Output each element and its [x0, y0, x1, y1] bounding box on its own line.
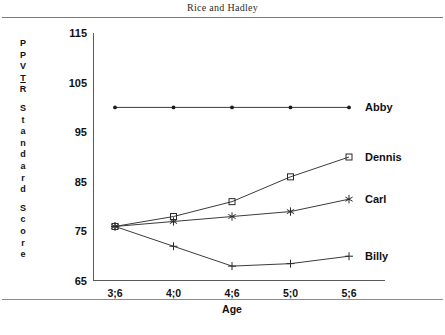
data-point-dot — [172, 106, 176, 110]
x-axis-tick-label: 4;0 — [166, 287, 181, 299]
y-axis-tick-label: 65 — [75, 275, 87, 287]
data-point-dot — [347, 106, 351, 110]
y-axis-title: PPVTRStandardScore — [12, 38, 34, 261]
series-line-billy — [115, 226, 349, 266]
y-axis-title-letter: S — [12, 103, 34, 115]
y-axis-title-letter: r — [12, 238, 34, 250]
series-label-dennis: Dennis — [365, 151, 402, 163]
x-axis-tick-label: 5;6 — [341, 287, 356, 299]
data-point-asterisk — [345, 195, 352, 203]
y-axis-tick-label: 115 — [69, 27, 87, 39]
x-axis-tick-label: 4;6 — [224, 287, 239, 299]
x-axis-tick-label: 3;6 — [107, 287, 122, 299]
y-axis-title-gap — [12, 196, 34, 203]
chart-plot-area: 657585951051153;64;04;65;05;6AgeAbbyDenn… — [93, 33, 385, 281]
header-rule — [2, 17, 443, 18]
y-axis-title-letter: r — [12, 173, 34, 185]
data-point-plus — [228, 262, 236, 270]
series-label-carl: Carl — [365, 193, 386, 205]
y-axis-title-letter: V — [12, 61, 34, 73]
data-point-plus — [170, 242, 178, 250]
y-axis-title-letter: T — [12, 73, 34, 85]
footer-rule — [2, 299, 443, 300]
y-axis-title-letter: e — [12, 249, 34, 261]
data-point-dot — [289, 106, 293, 110]
data-point-dot — [230, 106, 234, 110]
y-axis-tick-label: 105 — [69, 77, 87, 89]
y-axis-title-letter: P — [12, 38, 34, 50]
y-axis-title-letter: n — [12, 138, 34, 150]
y-axis-title-letter: a — [12, 126, 34, 138]
y-axis-title-letter: d — [12, 184, 34, 196]
y-axis-title-letter: t — [12, 115, 34, 127]
y-axis-title-letter: R — [12, 84, 34, 96]
series-label-abby: Abby — [365, 101, 393, 113]
y-axis-title-gap — [12, 96, 34, 103]
series-label-billy: Billy — [365, 250, 388, 262]
series-layer — [93, 33, 385, 281]
data-point-plus — [287, 260, 295, 268]
x-axis-tick-label: 5;0 — [283, 287, 298, 299]
y-axis-tick-label: 95 — [75, 126, 87, 138]
data-point-dot — [113, 106, 117, 110]
y-axis-title-letter: S — [12, 203, 34, 215]
x-axis-title: Age — [222, 303, 242, 315]
page-running-head: Rice and Hadley — [0, 2, 445, 13]
y-axis-title-letter: o — [12, 226, 34, 238]
y-axis-title-letter: c — [12, 214, 34, 226]
y-axis-title-letter: d — [12, 149, 34, 161]
data-point-plus — [345, 252, 353, 260]
y-axis-title-letter: P — [12, 50, 34, 62]
y-axis-tick-label: 75 — [75, 225, 87, 237]
y-axis-tick-label: 85 — [75, 176, 87, 188]
y-axis-title-letter: a — [12, 161, 34, 173]
